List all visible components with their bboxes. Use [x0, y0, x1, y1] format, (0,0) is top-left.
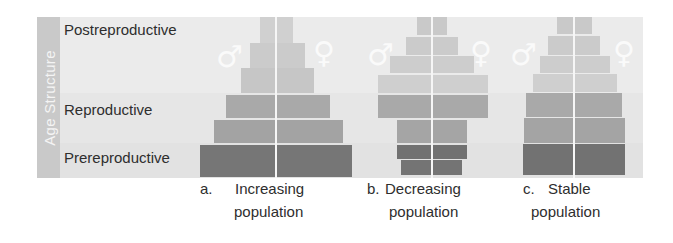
female-icon: ♀: [613, 38, 635, 68]
label-prereproductive: Prereproductive: [64, 149, 170, 166]
caption-a-line2: population: [234, 200, 303, 223]
caption-a-letter: a.: [200, 177, 213, 200]
caption-c-letter: c.: [523, 177, 535, 200]
female-icon: ♀: [470, 38, 492, 68]
pyramid-b-center-line: [431, 17, 433, 178]
pyramid-b-bar-4: [378, 75, 488, 93]
label-postreproductive: Postreproductive: [64, 21, 177, 38]
male-icon: ♂: [367, 40, 394, 70]
pyramid-a-bar-3: [241, 68, 314, 93]
label-reproductive: Reproductive: [64, 101, 152, 118]
pyramid-a-bar-5: [214, 120, 343, 143]
pyramid-c-bar-4: [533, 74, 617, 92]
pyramid-a-bar-4: [226, 95, 330, 118]
pyramid-c-center-line: [573, 17, 575, 178]
age-structure-text: Age Structure: [40, 50, 57, 146]
caption-a-line1: Increasing: [235, 177, 304, 200]
caption-b-line2: population: [389, 200, 458, 223]
pyramid-a-center-line: [275, 17, 277, 178]
caption-b-letter: b.: [367, 177, 380, 200]
caption-c-line1: Stable: [548, 177, 591, 200]
caption-b-line1: Decreasing: [385, 177, 461, 200]
pyramid-a-bar-2: [250, 43, 305, 68]
male-icon: ♂: [510, 40, 537, 70]
age-structure-axis-label: Age Structure: [37, 17, 60, 178]
male-icon: ♂: [216, 42, 243, 72]
pyramid-c-bar-3: [540, 56, 610, 73]
caption-c-line2: population: [531, 200, 600, 223]
pyramid-b-bar-5: [378, 95, 488, 118]
female-icon: ♀: [313, 38, 335, 68]
